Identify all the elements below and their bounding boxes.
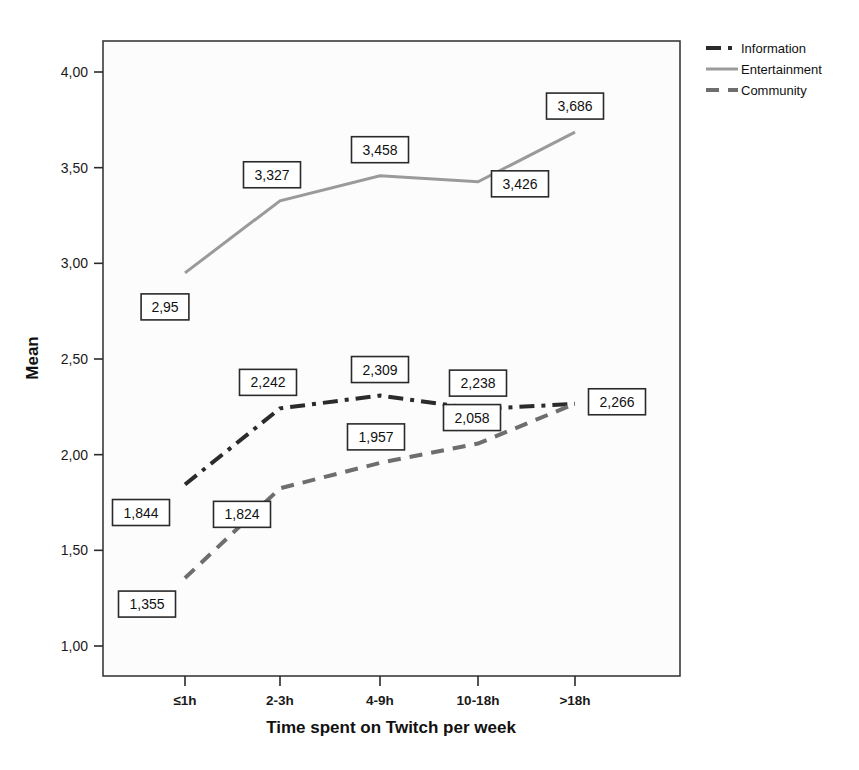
data-label-text: 3,426 — [502, 176, 537, 192]
data-label-text: 3,458 — [362, 142, 397, 158]
y-tick-label: 3,50 — [61, 160, 88, 176]
data-point-label: 1,355 — [119, 591, 176, 617]
data-point-label: 2,238 — [450, 370, 507, 396]
data-label-text: 2,242 — [250, 374, 285, 390]
data-label-text: 3,327 — [254, 167, 289, 183]
data-point-label: 3,327 — [244, 162, 301, 188]
data-label-text: 1,844 — [123, 505, 158, 521]
data-label-text: 1,824 — [224, 506, 259, 522]
x-category-label: 2-3h — [266, 693, 294, 708]
x-axis: ≤1h2-3h4-9h10-18h>18h — [173, 676, 590, 708]
data-label-text: 2,266 — [599, 394, 634, 410]
data-point-label: 1,824 — [214, 501, 271, 527]
data-point-label: 3,686 — [547, 93, 604, 119]
data-label-text: 1,957 — [358, 429, 393, 445]
y-tick-label: 1,50 — [61, 542, 88, 558]
data-label-text: 2,309 — [362, 362, 397, 378]
legend-label-community: Community — [741, 83, 807, 98]
y-axis: 1,001,502,002,503,003,504,00 — [61, 64, 103, 654]
data-point-label: 2,309 — [352, 357, 409, 383]
y-tick-label: 2,50 — [61, 351, 88, 367]
data-label-text: 2,058 — [454, 410, 489, 426]
y-tick-label: 2,00 — [61, 447, 88, 463]
data-point-label: 2,058 — [444, 405, 501, 431]
y-axis-title: Mean — [23, 336, 42, 379]
x-axis-title: Time spent on Twitch per week — [266, 718, 516, 737]
x-category-label: 10-18h — [457, 693, 500, 708]
data-label-text: 3,686 — [557, 98, 592, 114]
data-label-text: 2,238 — [460, 375, 495, 391]
legend-label-information: Information — [741, 41, 806, 56]
data-label-text: 1,355 — [129, 596, 164, 612]
line-chart: 1,001,502,002,503,003,504,00 ≤1h2-3h4-9h… — [0, 0, 859, 770]
y-tick-label: 1,00 — [61, 638, 88, 654]
data-point-label: 2,242 — [240, 369, 297, 395]
data-point-label: 1,844 — [113, 500, 170, 526]
data-point-label: 2,266 — [589, 389, 646, 415]
chart-legend: InformationEntertainmentCommunity — [706, 41, 822, 98]
legend-label-entertainment: Entertainment — [741, 62, 822, 77]
data-point-label: 3,426 — [492, 171, 549, 197]
x-category-label: ≤1h — [173, 693, 196, 708]
y-tick-label: 3,00 — [61, 255, 88, 271]
chart-container: 1,001,502,002,503,003,504,00 ≤1h2-3h4-9h… — [0, 0, 859, 770]
data-point-label: 3,458 — [352, 137, 409, 163]
data-point-label: 1,957 — [348, 424, 405, 450]
data-label-text: 2,95 — [151, 299, 178, 315]
data-point-label: 2,95 — [141, 294, 189, 320]
x-category-label: 4-9h — [366, 693, 394, 708]
x-category-label: >18h — [559, 693, 590, 708]
y-tick-label: 4,00 — [61, 64, 88, 80]
